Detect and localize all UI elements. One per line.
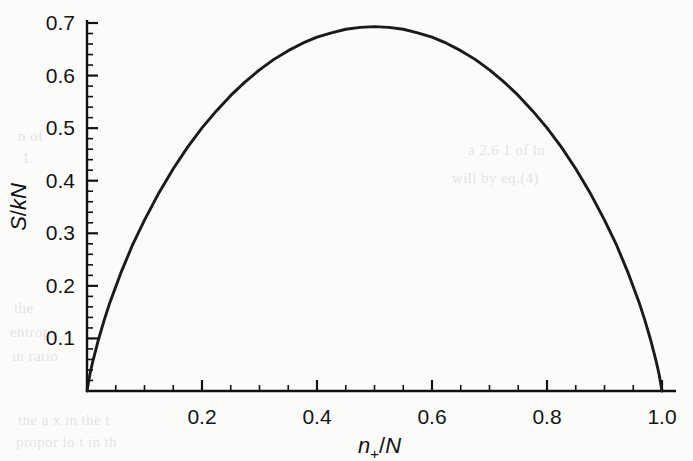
y-axis-title: S/kN [6, 183, 31, 231]
x-axis-tick-label: 0.2 [187, 405, 216, 428]
x-axis-tick-label: 0.4 [302, 405, 332, 428]
x-axis-tick-label: 0.6 [417, 405, 446, 428]
y-axis-tick-label: 0.1 [46, 326, 75, 349]
y-axis-tick-label: 0.7 [46, 11, 75, 34]
entropy-plot: 0.20.40.60.81.00.10.20.30.40.50.60.7n+/N… [0, 0, 693, 461]
y-axis-tick-label: 0.6 [46, 64, 75, 87]
y-axis-tick-label: 0.2 [46, 274, 75, 297]
data-curve [87, 27, 662, 391]
x-axis-tick-label: 0.8 [532, 405, 561, 428]
svg-text:S/kN: S/kN [6, 183, 31, 231]
x-axis-title: n+/N [358, 433, 401, 461]
figure-container: n of1a 2.6 1 of lnwill by eq.(4)theentro… [0, 0, 693, 461]
y-axis-tick-label: 0.5 [46, 116, 75, 139]
y-axis-tick-label: 0.4 [46, 169, 76, 192]
x-axis-tick-label: 1.0 [647, 405, 676, 428]
y-axis-tick-label: 0.3 [46, 221, 75, 244]
